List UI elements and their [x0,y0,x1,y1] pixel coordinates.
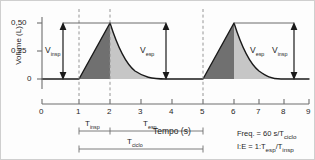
v-insp-left-label: Vinsp [45,46,61,57]
ie-ratio-formula: I:E = 1:Tesp/Tinsp [237,141,296,154]
t-ciclo-label: Tciclo [127,138,143,148]
t-insp-sub: insp [90,124,100,130]
ie-ratio-sub-1: esp [266,146,276,153]
v-esp-right-label: Vesp [250,46,264,57]
x-tick-label-8: 8 [281,108,285,116]
x-tick-label-6: 6 [231,108,235,116]
v-esp-mid-label: Vesp [140,46,154,57]
x-tick-label-0: 0 [39,108,43,116]
frequency-formula-prefix: Freq. = 60 s/T [237,129,284,138]
x-tick-label-5: 5 [200,108,204,116]
t-esp-label: Tesp [143,120,157,130]
v-esp-right-sub: esp [256,51,265,57]
v-insp-right-sub: insp [278,51,288,57]
frequency-formula-sub: ciclo [284,133,297,140]
volume-time-chart: Volume (L) 0,50 0,25 0 0 1 2 3 4 5 6 7 8… [0,0,315,160]
x-tick-label-9: 9 [306,108,310,116]
formula-block: Freq. = 60 s/Tciclo I:E = 1:Tesp/Tinsp [237,128,296,154]
x-tick-label-3: 3 [138,108,142,116]
v-esp-mid-sub: esp [146,51,155,57]
frequency-formula: Freq. = 60 s/Tciclo [237,128,296,141]
x-axis-ticks [42,99,309,104]
t-ciclo-sub: ciclo [132,142,143,148]
v-insp-left-sub: insp [51,51,61,57]
ie-ratio-sub-2: insp [282,146,293,153]
x-tick-label-4: 4 [169,108,173,116]
x-tick-label-2: 2 [107,108,111,116]
x-axis-title: Tempo (s) [153,126,191,136]
t-insp-label: Tinsp [85,120,100,130]
y-tick-label-025: 0,25 [11,47,27,55]
expiration-area-cycle-1 [110,23,166,79]
ie-ratio-prefix: I:E = 1:T [237,142,266,151]
x-tick-label-1: 1 [76,108,80,116]
x-tick-label-7: 7 [256,108,260,116]
y-tick-label-0: 0 [27,75,31,83]
t-esp-sub: esp [148,124,157,130]
v-insp-right-label: Vinsp [272,46,288,57]
y-tick-label-050: 0,50 [11,19,27,27]
volume-waveform-curve [42,23,309,79]
